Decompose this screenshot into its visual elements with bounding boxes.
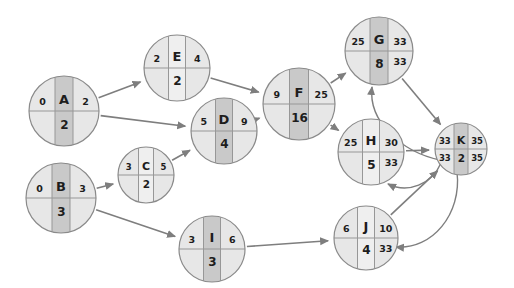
network-diagram-canvas: 02A224E203B335C259D436I3925F16253333G825… [0,0,514,288]
node-early-finish: 9 [241,116,248,127]
node-duration: 4 [220,137,228,151]
edge-B-C [97,184,114,188]
node-duration: 2 [143,178,150,190]
node-early-start: 33 [439,136,451,146]
node-J: 61033J4 [334,206,398,270]
node-late-start: 33 [439,153,451,163]
node-early-finish: 3 [79,183,86,194]
node-late-finish: 35 [471,153,483,163]
node-duration: 8 [375,57,383,71]
node-D: 59D4 [191,98,257,164]
node-letter: K [457,134,466,147]
node-early-start: 5 [200,116,207,127]
node-H: 253033H5 [338,119,404,185]
node-duration: 3 [57,205,65,219]
node-letter: G [374,32,385,47]
node-late-finish: 33 [393,56,406,67]
node-letter: D [219,112,230,127]
node-early-finish: 2 [82,96,89,107]
node-early-start: 9 [273,89,280,100]
edge-B-I [96,210,175,237]
node-B: 03B3 [26,163,96,233]
node-early-start: 25 [351,36,364,47]
node-early-start: 3 [126,162,132,172]
edge-G-K [402,79,440,125]
node-early-finish: 30 [385,137,399,148]
node-G: 253333G8 [345,17,413,85]
node-duration: 4 [362,243,370,257]
node-early-start: 3 [188,234,195,245]
node-letter: C [142,160,150,173]
node-letter: E [173,49,182,64]
node-early-finish: 10 [379,223,393,234]
node-early-finish: 6 [229,234,236,245]
node-K: 33333535K2 [435,123,487,175]
node-letter: J [363,219,369,234]
node-duration: 2 [458,152,465,164]
node-duration: 5 [367,158,375,172]
edge-I-J [247,241,328,247]
node-early-start: 0 [39,96,46,107]
node-early-start: 25 [344,137,357,148]
edge-C-D [172,150,190,160]
node-late-finish: 33 [385,157,398,168]
node-early-finish: 33 [393,36,406,47]
node-letter: A [59,92,69,107]
node-A: 02A2 [29,76,99,146]
edge-H-K [406,150,429,151]
node-early-start: 2 [153,53,160,64]
node-early-finish: 4 [194,53,201,64]
node-late-finish: 33 [379,243,392,254]
node-duration: 2 [60,118,68,132]
node-letter: I [210,230,215,245]
node-duration: 16 [291,111,308,125]
node-duration: 3 [208,255,216,269]
edge-A-E [99,82,141,98]
node-letter: B [56,179,66,194]
node-early-start: 6 [343,223,350,234]
node-C: 35C2 [118,147,174,203]
node-early-finish: 35 [471,136,483,146]
node-F: 925F16 [263,68,335,140]
node-early-start: 0 [36,183,43,194]
backward-edge-K-J [396,172,458,247]
activity-network-diagram: 02A224E203B335C259D436I3925F16253333G825… [0,0,514,288]
edge-F-G [331,73,346,83]
edge-A-D [101,116,186,127]
edge-E-F [211,78,259,92]
node-I: 36I3 [179,216,245,282]
node-E: 24E2 [144,35,210,101]
node-duration: 2 [173,74,181,88]
node-letter: H [366,133,377,148]
edge-D-F [257,118,260,119]
node-early-finish: 5 [160,162,166,172]
node-early-finish: 25 [315,89,328,100]
node-letter: F [295,85,304,100]
edge-F-H [331,125,339,130]
